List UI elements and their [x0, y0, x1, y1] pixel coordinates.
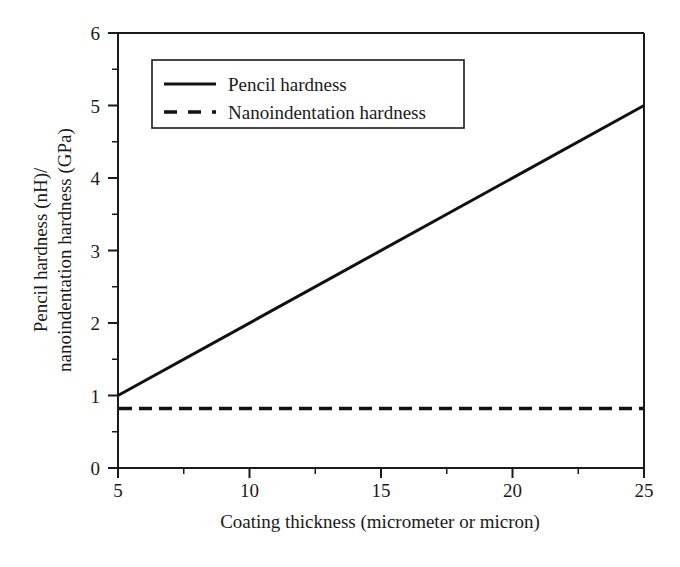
chart-canvas: 0 1 2 3 4 5 6 5 10 15 20 25 Coating thic…	[0, 0, 680, 567]
y-axis-title-line1: Pencil hardness (nH)/	[30, 167, 52, 332]
y-tick-label-2: 2	[91, 313, 101, 334]
x-axis-title: Coating thickness (micrometer or micron)	[220, 511, 540, 533]
y-axis-title-line2: nanoindentation hardness (GPa)	[54, 128, 76, 372]
data-series	[118, 106, 644, 409]
y-major-ticks	[108, 33, 118, 468]
y-tick-label-1: 1	[91, 386, 101, 407]
x-tick-label-5: 5	[113, 480, 123, 501]
legend: Pencil hardness Nanoindentation hardness	[152, 60, 464, 128]
x-tick-label-20: 20	[503, 480, 522, 501]
x-major-ticks	[118, 468, 644, 478]
y-tick-label-3: 3	[91, 241, 101, 262]
y-tick-labels: 0 1 2 3 4 5 6	[91, 23, 101, 479]
x-tick-label-10: 10	[240, 480, 259, 501]
x-tick-label-25: 25	[635, 480, 654, 501]
y-tick-label-5: 5	[91, 96, 101, 117]
y-tick-label-0: 0	[91, 458, 101, 479]
legend-label-nanoindentation-hardness: Nanoindentation hardness	[228, 102, 426, 123]
legend-label-pencil-hardness: Pencil hardness	[228, 74, 347, 95]
series-pencil-hardness-line	[118, 106, 644, 396]
x-tick-label-15: 15	[372, 480, 391, 501]
chart-figure: 0 1 2 3 4 5 6 5 10 15 20 25 Coating thic…	[0, 0, 680, 567]
x-tick-labels: 5 10 15 20 25	[113, 480, 653, 501]
y-tick-label-6: 6	[91, 23, 101, 44]
y-tick-label-4: 4	[91, 168, 101, 189]
